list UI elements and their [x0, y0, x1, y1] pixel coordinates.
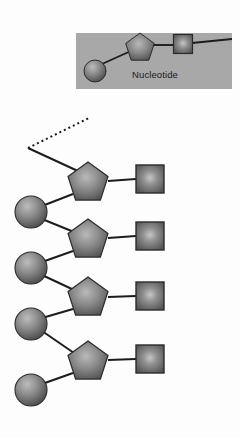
nucleotide-legend: Nucleotide	[76, 33, 232, 89]
diagram-canvas: Nucleotide	[0, 0, 240, 438]
sugar-1	[68, 162, 108, 200]
bond-phosphate-2-sugar-3	[42, 275, 74, 290]
bond-phosphate-1-sugar-2	[42, 219, 74, 232]
legend-label: Nucleotide	[132, 69, 178, 80]
phosphate-1	[15, 196, 47, 228]
sugar-4	[68, 341, 108, 379]
bond-sugar-1-phosphate-1	[42, 194, 73, 206]
bond-phosphate-3-sugar-4	[42, 331, 74, 353]
legend-phosphate-circle	[84, 60, 106, 82]
dashed-continuation-bond	[28, 118, 89, 148]
phosphate-circles	[15, 196, 47, 406]
base-squares	[136, 165, 164, 373]
sugar-pentagons	[68, 162, 108, 379]
bond-sugar-4-phosphate-4	[42, 373, 73, 384]
legend-base-square	[174, 35, 193, 54]
bond-sugar-2-phosphate-2	[42, 251, 73, 262]
base-4	[136, 345, 164, 373]
bond-sugar-3-base-3	[108, 296, 136, 297]
phosphate-3	[15, 308, 47, 340]
sugar-2	[68, 219, 108, 257]
sugar-3	[68, 277, 108, 315]
nucleic-acid-diagram: Nucleotide	[0, 0, 240, 438]
base-2	[136, 222, 164, 250]
bond-sugar-3-phosphate-3	[42, 309, 73, 318]
bond-sugar-2-base-2	[108, 236, 136, 238]
base-3	[136, 282, 164, 310]
phosphate-2	[15, 252, 47, 284]
phosphate-4	[15, 374, 47, 406]
base-1	[136, 165, 164, 193]
bond-sugar-4-base-4	[108, 359, 136, 360]
bond-vertex-sugar-1	[28, 148, 80, 172]
bond-sugar-1-base-1	[108, 179, 136, 181]
